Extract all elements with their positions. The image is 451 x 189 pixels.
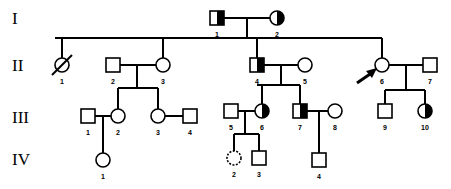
female-symbol-icon [96, 153, 110, 167]
individual-number: 4 [317, 173, 321, 180]
individual-number: 9 [383, 124, 387, 131]
individual-III-6: 6 [255, 104, 269, 131]
individual-III-2: 2 [111, 109, 125, 136]
individual-number: 7 [428, 78, 432, 85]
individual-number: 10 [421, 124, 429, 131]
individual-I-1: 1 [210, 11, 224, 38]
individual-number: 3 [161, 78, 165, 85]
individual-II-1: 1 [52, 55, 72, 85]
individual-III-4: 4 [183, 109, 197, 136]
individual-number: 1 [215, 31, 219, 38]
individual-III-9: 9 [378, 104, 392, 131]
male-symbol-icon [183, 109, 197, 123]
female-symbol-icon [151, 109, 165, 123]
individual-II-2: 2 [106, 58, 120, 85]
individual-number: 5 [229, 124, 233, 131]
individual-III-5: 5 [224, 104, 238, 131]
proband-arrow-icon [357, 68, 377, 83]
individual-II-6: 6 [375, 58, 389, 85]
individual-III-7: 7 [293, 104, 307, 131]
individual-II-7: 7 [423, 58, 437, 85]
female-symbol-icon [328, 104, 342, 118]
generation-label: I [12, 9, 18, 28]
individual-IV-1: 1 [96, 153, 110, 180]
individual-number: 6 [260, 124, 264, 131]
male-symbol-icon [106, 58, 120, 72]
individual-number: 1 [86, 129, 90, 136]
individual-number: 2 [232, 171, 236, 178]
individual-II-5: 5 [298, 58, 312, 85]
female-symbol-icon [298, 58, 312, 72]
individual-I-2: 2 [270, 11, 284, 38]
individual-number: 5 [303, 78, 307, 85]
individual-number: 3 [156, 129, 160, 136]
individual-III-1: 1 [81, 109, 95, 136]
male-symbol-icon [252, 151, 266, 165]
male-symbol-icon [224, 104, 238, 118]
individual-number: 2 [116, 129, 120, 136]
individual-IV-3: 3 [252, 151, 266, 178]
individual-III-3: 3 [151, 109, 165, 136]
generation-label: IV [12, 150, 31, 169]
male-symbol-icon [378, 104, 392, 118]
individual-number: 2 [111, 78, 115, 85]
generation-label: III [12, 108, 29, 127]
individual-number: 3 [257, 171, 261, 178]
female-symbol-icon [227, 151, 241, 165]
individual-number: 1 [60, 78, 64, 85]
female-symbol-icon [375, 58, 389, 72]
individual-II-3: 3 [156, 58, 170, 85]
individual-II-4: 4 [250, 58, 264, 85]
generation-label: II [12, 56, 24, 75]
individual-number: 8 [333, 124, 337, 131]
individual-III-10: 10 [418, 104, 432, 131]
male-symbol-icon [81, 109, 95, 123]
female-symbol-icon [111, 109, 125, 123]
individual-number: 4 [188, 129, 192, 136]
male-symbol-icon [423, 58, 437, 72]
individual-IV-2: 2 [227, 151, 241, 178]
individual-IV-4: 4 [312, 153, 326, 180]
individual-number: 2 [275, 31, 279, 38]
individual-number: 7 [298, 124, 302, 131]
individual-number: 6 [380, 78, 384, 85]
individual-number: 4 [255, 78, 259, 85]
individual-III-8: 8 [328, 104, 342, 131]
individual-number: 1 [101, 173, 105, 180]
female-symbol-icon [156, 58, 170, 72]
male-symbol-icon [312, 153, 326, 167]
pedigree-chart: IIIIIIIV 121234567123456789101234 [0, 0, 451, 189]
